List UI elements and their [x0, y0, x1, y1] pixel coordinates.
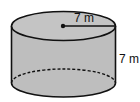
- radius-label: 7 m: [74, 11, 94, 25]
- cylinder-diagram: 7 m 7 m: [0, 0, 140, 102]
- center-dot: [61, 24, 65, 28]
- height-label: 7 m: [119, 52, 139, 66]
